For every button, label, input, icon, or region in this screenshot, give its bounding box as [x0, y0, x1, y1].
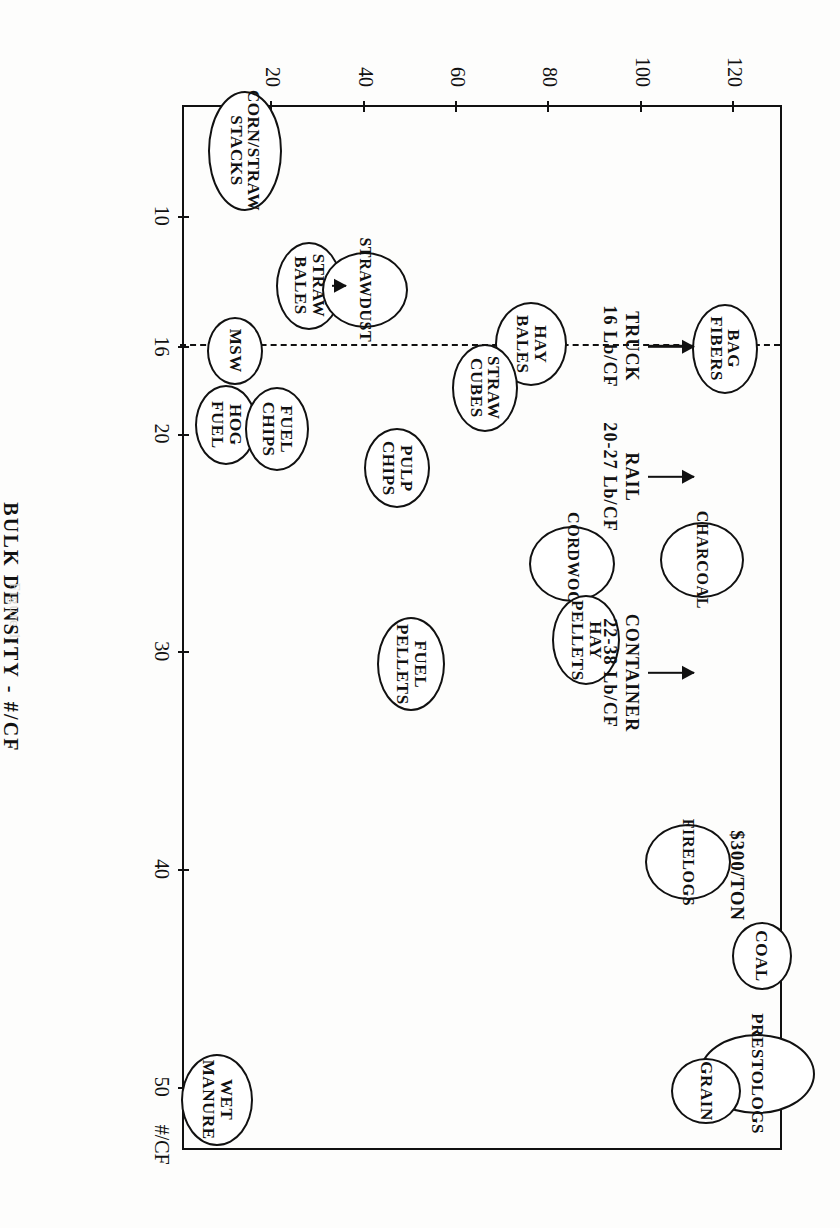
x-tick-label: 16 — [150, 336, 173, 356]
data-point-label: HOG FUEL — [208, 401, 244, 449]
y-tick-label: 60 — [445, 67, 468, 87]
data-point-label: BAG FIBERS — [707, 316, 743, 381]
y-tick — [363, 101, 365, 112]
data-point-ellipse[interactable]: STRAW CUBES — [452, 344, 518, 432]
annotation-firelogs-price: $300/TON — [726, 830, 748, 921]
annotation-truck: TRUCK 16 Lb/CF — [599, 305, 641, 387]
data-point-label: PRESTOLOGS — [748, 1013, 766, 1134]
annotation-arrow-rail — [648, 476, 694, 478]
data-point-label: WET MANURE — [199, 1060, 235, 1140]
data-point-label: CHARCOAL — [693, 511, 710, 609]
figure-canvas: 101620304050#/CF20406080100120CORN/STRAW… — [0, 0, 840, 1228]
data-point-label: HAY BALES — [513, 315, 549, 374]
annotation-arrow-container — [648, 672, 694, 674]
x-tick — [178, 869, 189, 871]
y-tick-label: 100 — [630, 57, 653, 87]
data-point-label: PULP CHIPS — [379, 441, 415, 496]
data-point-ellipse[interactable]: CHARCOAL — [660, 522, 744, 598]
data-point-ellipse[interactable]: PULP CHIPS — [364, 428, 430, 508]
data-point-ellipse[interactable]: BAG FIBERS — [692, 304, 758, 394]
data-point-label: FUEL CHIPS — [259, 402, 295, 457]
data-point-label: STRAW CUBES — [467, 356, 503, 419]
data-point-ellipse[interactable]: COAL — [732, 922, 792, 990]
plot-frame: 101620304050#/CF20406080100120CORN/STRAW… — [182, 105, 782, 1150]
x-tick — [178, 216, 189, 218]
data-point-ellipse[interactable]: CORN/STRAW STACKS — [208, 91, 282, 211]
y-tick-label: 80 — [538, 67, 561, 87]
data-point-ellipse[interactable]: CORDWOOD — [529, 526, 615, 602]
data-point-label: MSW — [226, 329, 244, 373]
data-point-ellipse[interactable]: FIRELOGS — [645, 824, 731, 900]
x-tick-label: 30 — [150, 641, 173, 661]
annotation-arrow-truck — [648, 345, 694, 347]
data-point-ellipse[interactable]: FUEL CHIPS — [245, 387, 309, 471]
y-tick-label: 120 — [722, 57, 745, 87]
data-point-label: COAL — [753, 930, 771, 982]
x-tick — [178, 651, 189, 653]
data-point-ellipse[interactable]: MSW — [207, 317, 263, 385]
data-point-ellipse[interactable]: FUEL PELLETS — [377, 617, 445, 711]
x-tick-label: 50 — [150, 1077, 173, 1097]
x-axis-unit-label: #/CF — [150, 1125, 173, 1165]
x-tick — [178, 434, 189, 436]
data-point-label: GRAIN — [697, 1061, 715, 1121]
y-tick-label: 40 — [353, 67, 376, 87]
rotated-scan-wrapper: 101620304050#/CF20406080100120CORN/STRAW… — [0, 0, 840, 1228]
data-point-label: CORN/STRAW STACKS — [227, 90, 263, 211]
figure-caption: Figure 1. — [6, 0, 23, 1228]
data-point-ellipse[interactable]: GRAIN — [671, 1058, 741, 1124]
data-point-label: FIRELOGS — [679, 819, 696, 907]
y-tick — [547, 101, 549, 112]
x-tick-label: 20 — [150, 424, 173, 444]
y-tick — [640, 101, 642, 112]
data-point-label: STRAWDUST — [356, 237, 373, 342]
y-tick — [732, 101, 734, 112]
data-point-label: FUEL PELLETS — [393, 624, 429, 705]
x-tick-label: 40 — [150, 859, 173, 879]
x-tick — [178, 346, 189, 348]
y-tick — [455, 101, 457, 112]
annotation-rail: RAIL 20-27 Lb/CF — [599, 422, 641, 532]
data-point-ellipse[interactable]: WET MANURE — [181, 1054, 253, 1146]
y-tick-label: 20 — [261, 67, 284, 87]
x-tick-label: 10 — [150, 206, 173, 226]
annotation-container: CONTAINER 22-38 Lb/CF — [599, 614, 641, 733]
straw-bales-callout-arrow — [332, 284, 346, 286]
